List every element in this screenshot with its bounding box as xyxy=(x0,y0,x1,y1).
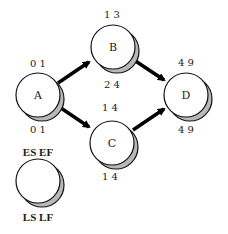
node-ls-lf: 4 9 xyxy=(178,124,194,135)
node-label: C xyxy=(108,137,116,150)
edge-c-d xyxy=(133,109,164,130)
node-b: B 1 3 2 4 xyxy=(91,9,139,90)
edge-b-d xyxy=(134,60,164,80)
node-es-ef: 1 3 xyxy=(104,9,120,20)
node-es-ef: 4 9 xyxy=(178,57,194,68)
legend-ls-lf: LS LF xyxy=(23,211,54,223)
node-ls-lf: 0 1 xyxy=(30,124,46,135)
node-label: B xyxy=(109,41,117,54)
node-es-ef: 1 4 xyxy=(102,102,118,113)
network-diagram: A 0 1 0 1 B 1 3 2 4 C 1 4 1 4 D 4 9 4 9 … xyxy=(0,0,228,234)
node-label: D xyxy=(182,89,191,102)
legend: ES EF LS LF xyxy=(16,146,64,223)
edge-a-c xyxy=(58,106,89,127)
node-c: C 1 4 1 4 xyxy=(90,102,138,182)
legend-es-ef: ES EF xyxy=(23,146,54,158)
legend-circle xyxy=(16,159,60,203)
node-a: A 0 1 0 1 xyxy=(16,58,64,135)
edge-a-b xyxy=(58,62,89,83)
node-d: D 4 9 4 9 xyxy=(164,57,212,135)
node-ls-lf: 1 4 xyxy=(102,171,118,182)
node-ls-lf: 2 4 xyxy=(104,79,120,90)
node-es-ef: 0 1 xyxy=(30,58,46,69)
node-label: A xyxy=(33,89,43,102)
